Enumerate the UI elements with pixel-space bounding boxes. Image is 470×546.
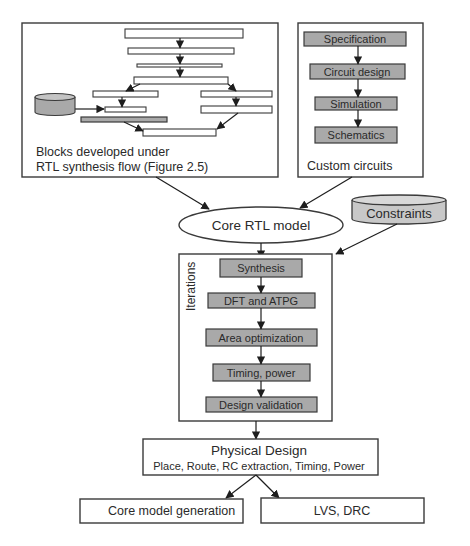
step-design-validation-label: Design validation	[219, 399, 303, 411]
flow-bar	[105, 107, 146, 112]
flow-bar	[128, 48, 234, 54]
core-model-generation-node: Core model generation	[80, 499, 243, 523]
step-dft-atpg-label: DFT and ATPG	[224, 295, 298, 307]
database-icon	[35, 94, 75, 116]
constraints-database: Constraints	[352, 195, 446, 224]
custom-circuits-panel: Specification Circuit design Simulation …	[298, 23, 423, 177]
rtl-blocks-caption-1: Blocks developed under	[36, 145, 169, 159]
flow-bar	[201, 106, 272, 113]
step-specification-label: Specification	[324, 33, 386, 45]
rtl-blocks-caption-2: RTL synthesis flow (Figure 2.5)	[36, 160, 208, 174]
core-rtl-model-node: Core RTL model	[179, 207, 343, 243]
step-simulation-label: Simulation	[330, 98, 381, 110]
step-area-optimization-label: Area optimization	[219, 332, 304, 344]
step-circuit-design-label: Circuit design	[324, 66, 391, 78]
lvs-drc-node: LVS, DRC	[261, 498, 424, 523]
step-synthesis-label: Synthesis	[237, 262, 285, 274]
design-flow-diagram: Blocks developed under RTL synthesis flo…	[0, 0, 470, 546]
core-model-generation-label: Core model generation	[108, 504, 235, 518]
flow-bar	[137, 64, 222, 67]
step-timing-power-label: Timing, power	[227, 367, 296, 379]
flow-bar	[93, 91, 158, 97]
physical-design-title: Physical Design	[211, 443, 307, 458]
flow-bar	[125, 29, 243, 38]
custom-circuits-caption: Custom circuits	[307, 159, 392, 173]
iterations-label: Iterations	[184, 262, 198, 311]
constraints-label: Constraints	[366, 206, 432, 221]
physical-design-node: Physical Design Place, Route, RC extract…	[143, 439, 378, 475]
step-schematics-label: Schematics	[328, 129, 385, 141]
physical-design-subtitle: Place, Route, RC extraction, Timing, Pow…	[153, 460, 365, 472]
core-rtl-model-label: Core RTL model	[212, 218, 310, 233]
flow-bar	[143, 129, 216, 136]
flow-bar	[201, 91, 272, 97]
lvs-drc-label: LVS, DRC	[314, 504, 371, 518]
rtl-blocks-panel: Blocks developed under RTL synthesis flo…	[22, 23, 278, 177]
iterations-panel: Iterations Synthesis DFT and ATPG Area o…	[179, 254, 332, 421]
flow-bar-grey	[81, 117, 167, 122]
flow-bar	[134, 77, 228, 84]
